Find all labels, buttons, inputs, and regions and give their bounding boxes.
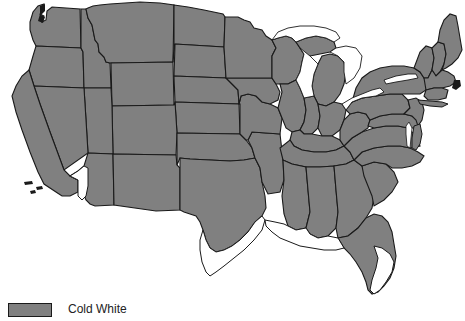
state-alabama <box>306 166 338 238</box>
state-wyoming <box>111 62 174 106</box>
california-channel-islands <box>24 181 43 194</box>
us-map-svg <box>0 0 465 300</box>
legend-color-swatch <box>8 303 52 317</box>
state-kansas <box>175 102 240 134</box>
state-new-mexico <box>113 154 180 211</box>
state-washington <box>30 4 81 48</box>
map-canvas <box>0 0 465 300</box>
state-utah <box>84 88 113 154</box>
legend-label: Cold White <box>68 303 127 316</box>
state-connecticut-rhode-island <box>424 88 448 100</box>
map-figure: Cold White <box>0 0 465 321</box>
state-michigan-lower <box>312 54 346 106</box>
state-south-dakota <box>174 44 226 78</box>
map-legend: Cold White <box>8 303 127 317</box>
state-oregon <box>29 46 84 88</box>
state-colorado <box>112 102 177 155</box>
state-minnesota <box>224 17 276 78</box>
